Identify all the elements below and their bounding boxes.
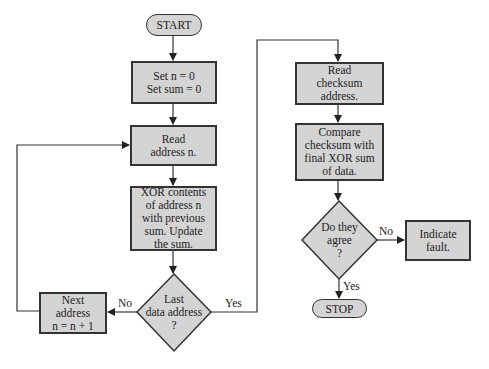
label-yes-last: Yes	[225, 297, 242, 309]
xor-line2: of address n	[141, 199, 206, 212]
compare-line2: checksum with	[304, 139, 374, 152]
agree-line2: agree	[327, 234, 352, 247]
init-line2: Set sum = 0	[147, 83, 202, 96]
read-address-line2: address n.	[151, 146, 197, 159]
init-line1: Set n = 0	[147, 70, 202, 83]
xor-line4: sum. Update	[141, 225, 206, 238]
next-address-box: Next address n = n + 1	[39, 292, 107, 334]
fault-line1: Indicate	[419, 228, 456, 241]
agree-line3: ?	[337, 247, 342, 260]
read-address-line1: Read	[151, 133, 197, 146]
compare-line1: Compare	[304, 126, 374, 139]
stop-label: STOP	[326, 303, 354, 315]
label-no-last: No	[118, 297, 132, 309]
last-line3: ?	[171, 319, 176, 332]
next-line1: Next	[52, 294, 94, 307]
start-terminal: START	[146, 14, 202, 36]
agree-line1: Do they	[321, 221, 358, 234]
checksum-line3: address.	[317, 90, 363, 103]
compare-box: Compare checksum with final XOR sum of d…	[295, 123, 384, 181]
xor-box: XOR contents of address n with previous …	[130, 186, 217, 251]
next-line3: n = n + 1	[52, 320, 94, 333]
compare-line4: of data.	[304, 165, 374, 178]
init-box: Set n = 0 Set sum = 0	[131, 61, 217, 104]
last-line1: Last	[164, 293, 184, 306]
read-checksum-box: Read checksum address.	[295, 62, 384, 105]
xor-line1: XOR contents	[141, 186, 206, 199]
indicate-fault-box: Indicate fault.	[405, 220, 471, 261]
xor-line5: the sum.	[141, 238, 206, 251]
stop-terminal: STOP	[312, 299, 367, 318]
checksum-line1: Read	[317, 64, 363, 77]
decision-agree: Do they agree ?	[302, 218, 377, 262]
read-address-box: Read address n.	[130, 125, 217, 166]
last-line2: data address	[146, 306, 203, 319]
fault-line2: fault.	[419, 241, 456, 254]
decision-last-address: Last data address ?	[137, 290, 211, 334]
label-no-agree: No	[379, 225, 393, 237]
checksum-line2: checksum	[317, 77, 363, 90]
next-line2: address	[52, 307, 94, 320]
label-yes-agree: Yes	[343, 280, 360, 292]
compare-line3: final XOR sum	[304, 152, 374, 165]
start-label: START	[157, 19, 192, 31]
xor-line3: with previous	[141, 212, 206, 225]
